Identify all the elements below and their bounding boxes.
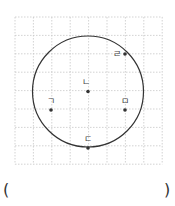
point-label-digeut: ㄷ: [84, 134, 92, 144]
point-nieun: [86, 90, 90, 94]
point-rieul: [123, 52, 127, 56]
point-label-giyeok: ㄱ: [47, 96, 55, 106]
point-digeut: [86, 146, 90, 150]
circle-grid-figure: ㄱㄴㄷㄹㅁ: [0, 0, 175, 175]
point-label-rieul: ㄹ: [113, 49, 121, 59]
point-giyeok: [49, 108, 53, 112]
open-parenthesis: (: [3, 180, 9, 200]
close-parenthesis: ): [164, 180, 170, 200]
points: ㄱㄴㄷㄹㅁ: [47, 49, 129, 150]
point-label-nieun: ㄴ: [82, 77, 90, 87]
answer-blank[interactable]: [20, 180, 155, 200]
point-label-mieum: ㅁ: [121, 96, 129, 106]
point-mieum: [123, 108, 127, 112]
